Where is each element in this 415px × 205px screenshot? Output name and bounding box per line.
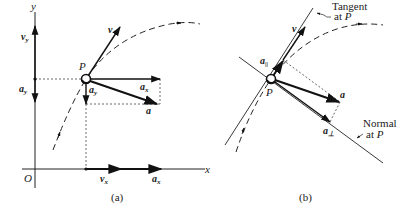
vy-label: vy: [21, 31, 29, 44]
component-projection-line: [330, 102, 340, 122]
kinematics-diagram: y x O vy ay vx ax v ax a ay: [0, 0, 415, 205]
ay-axis-label: ay: [19, 83, 28, 96]
ax-axis-label: ax: [152, 173, 161, 186]
tangent-leader: [317, 13, 331, 17]
normal-label-at: at P: [366, 128, 384, 140]
a-perp-label: a⊥: [323, 125, 334, 138]
point-p-label-b: P: [265, 86, 273, 98]
point-p-label: P: [78, 60, 86, 72]
panel-a: y x O vy ay vx ax v ax a ay: [19, 0, 210, 204]
a-perp-arrow: [275, 82, 330, 122]
caption-b: (b): [299, 191, 312, 204]
velocity-arrow: [88, 27, 120, 76]
velocity-label: v: [108, 24, 113, 35]
ax-label: ax: [140, 81, 149, 94]
acceleration-label-b: a: [340, 89, 345, 100]
origin-label: O: [24, 172, 32, 184]
trajectory-curve-b: [236, 24, 383, 152]
a-parallel-label: a||: [260, 55, 268, 68]
normal-leader: [357, 134, 363, 138]
acceleration-label: a: [146, 105, 151, 116]
vx-label: vx: [100, 173, 108, 186]
y-axis-label: y: [30, 0, 36, 12]
panel-b: v a|| a a⊥ P Tangent at P Normal at P (b…: [225, 0, 397, 204]
x-axis-label: x: [204, 163, 210, 175]
tangent-label-at: at P: [334, 10, 352, 22]
velocity-label-b: v: [292, 23, 297, 34]
normal-line: [239, 57, 383, 163]
ay-label: ay: [89, 84, 98, 97]
trajectory-curve: [53, 23, 200, 151]
trajectory-direction-arrow: [58, 132, 60, 138]
caption-a: (a): [111, 191, 124, 204]
